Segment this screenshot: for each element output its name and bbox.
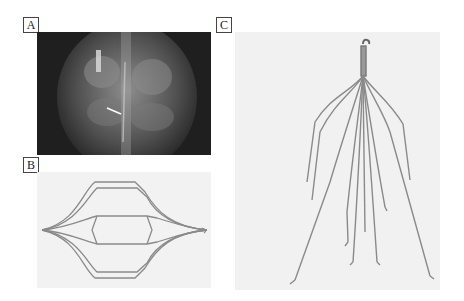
panel-label-a: A — [23, 17, 39, 33]
filter-photo-b — [37, 172, 211, 288]
conical-filter-drawing — [235, 32, 440, 292]
panel-label-b: B — [23, 157, 39, 173]
panel-label-c: C — [216, 17, 232, 33]
xray-image — [37, 32, 211, 155]
